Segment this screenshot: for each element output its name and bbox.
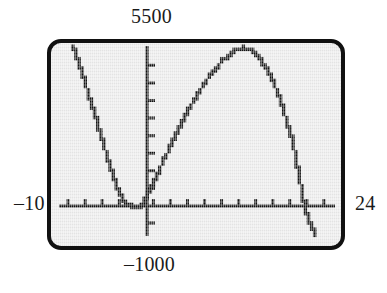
curve-pixel (297, 181, 300, 184)
curve-pixel (226, 57, 229, 60)
curve-pixel (74, 57, 77, 60)
calculator-screen (47, 39, 345, 250)
curve-pixel (214, 66, 217, 69)
curve-pixel (77, 63, 80, 66)
curve-pixel (226, 54, 229, 57)
curve-pixel (124, 203, 127, 206)
curve-pixel (152, 181, 155, 184)
curve-pixel (155, 178, 158, 181)
curve-pixel (155, 175, 158, 178)
curve-pixel (115, 184, 118, 187)
curve-pixel (180, 122, 183, 125)
curve-pixel (170, 138, 173, 141)
curve-pixel (195, 97, 198, 100)
curve-pixel (254, 54, 257, 57)
curve-pixel (189, 107, 192, 110)
curve-pixel (99, 134, 102, 137)
curve-pixel (301, 196, 304, 199)
curve-pixel (80, 76, 83, 79)
curve-pixel (183, 119, 186, 122)
curve-pixel (186, 107, 189, 110)
curve-pixel (71, 45, 74, 48)
curve-pixel (301, 190, 304, 193)
curve-pixel (161, 156, 164, 159)
curve-pixel (239, 48, 242, 51)
curve-pixel (115, 178, 118, 181)
curve-pixel (115, 181, 118, 184)
curve-pixel (301, 184, 304, 187)
curve-pixel (177, 131, 180, 134)
curve-pixel (223, 57, 226, 60)
curve-pixel (294, 150, 297, 153)
curve-pixel (195, 91, 198, 94)
curve-pixel (297, 165, 300, 168)
curve-pixel (276, 88, 279, 91)
curve-pixel (232, 48, 235, 51)
curve-pixel (133, 206, 136, 209)
curve-pixel (152, 184, 155, 187)
figure-canvas: 5500 –10 24 –1000 (0, 0, 387, 293)
curve-pixel (270, 79, 273, 82)
curve-pixel (158, 169, 161, 172)
curve-pixel (146, 196, 149, 199)
curve-pixel (310, 221, 313, 224)
curve-pixel (301, 193, 304, 196)
curve-pixel (279, 94, 282, 97)
curve-pixel (180, 125, 183, 128)
curve-pixel (282, 110, 285, 113)
curve-pixel (276, 91, 279, 94)
curve-pixel (257, 54, 260, 57)
curve-pixel (263, 66, 266, 69)
curve-pixel (121, 196, 124, 199)
curve-pixel (257, 57, 260, 60)
curve-pixel (71, 48, 74, 51)
curve-pixel (96, 125, 99, 128)
curve-pixel (254, 51, 257, 54)
curve-pixel (208, 72, 211, 75)
x-axis-ticks (68, 199, 324, 205)
curve-pixel (93, 113, 96, 116)
curve-pixel (297, 178, 300, 181)
curve-pixel (294, 165, 297, 168)
curve-pixel (102, 138, 105, 141)
curve-pixel (288, 131, 291, 134)
curve-pixel (99, 128, 102, 131)
curve-pixel (291, 138, 294, 141)
curve-pixel (167, 150, 170, 153)
curve-pixel (177, 128, 180, 131)
curve-pixel (77, 66, 80, 69)
curve-pixel (84, 85, 87, 88)
curve-pixel (96, 116, 99, 119)
curve-pixel (204, 82, 207, 85)
curve-pixel (149, 190, 152, 193)
curve-pixel (242, 48, 245, 51)
curve-pixel (192, 97, 195, 100)
curve-pixel (74, 51, 77, 54)
curve-pixel (90, 97, 93, 100)
curve-pixel (220, 57, 223, 60)
curve-pixel (158, 172, 161, 175)
curve-pixel (285, 116, 288, 119)
curve-pixel (108, 165, 111, 168)
curve-pixel (111, 175, 114, 178)
curve-pixel (87, 88, 90, 91)
curve-pixel (80, 69, 83, 72)
curve-pixel (276, 94, 279, 97)
curve-pixel (105, 159, 108, 162)
curve-pixel (77, 60, 80, 63)
curve-pixel (291, 144, 294, 147)
curve-pixel (273, 85, 276, 88)
curve-pixel (229, 54, 232, 57)
curve-pixel (294, 159, 297, 162)
curve-pixel (127, 203, 130, 206)
curve-pixel (164, 153, 167, 156)
curve-pixel (263, 63, 266, 66)
curve-pixel (288, 134, 291, 137)
curve-pixel (111, 169, 114, 172)
curve-pixel (307, 215, 310, 218)
curve-pixel (266, 69, 269, 72)
curve-pixel (130, 203, 133, 206)
curve-pixel (118, 193, 121, 196)
curve-pixel (80, 72, 83, 75)
curve-pixel (170, 141, 173, 144)
